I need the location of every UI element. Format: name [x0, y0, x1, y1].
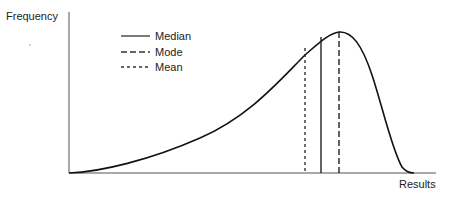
- skewed-distribution-chart: Frequency Results Median Mode Mean: [0, 0, 456, 198]
- legend: Median Mode Mean: [121, 30, 191, 73]
- x-axis-label: Results: [399, 178, 436, 190]
- distribution-curve: [69, 32, 414, 173]
- legend-mode-label: Mode: [155, 46, 183, 58]
- stray-dot: [29, 44, 31, 46]
- y-axis-label: Frequency: [6, 10, 58, 22]
- legend-mean-label: Mean: [155, 61, 183, 73]
- legend-median-label: Median: [155, 30, 191, 42]
